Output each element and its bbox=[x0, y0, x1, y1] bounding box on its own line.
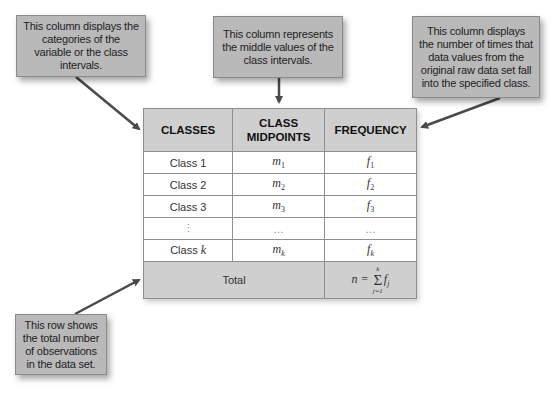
table-row: Class 3 m3 f3 bbox=[144, 196, 417, 218]
table-row: Class k mk fk bbox=[144, 240, 417, 262]
frequency-subscript: 3 bbox=[370, 206, 374, 215]
header-frequency: FREQUENCY bbox=[325, 109, 417, 152]
midpoint-subscript: 1 bbox=[281, 162, 285, 171]
callout-total: This row shows the total number of obser… bbox=[15, 314, 107, 375]
callout-midpoints-text: This column represents the middle values… bbox=[220, 28, 336, 67]
callout-frequency: This column displays the number of times… bbox=[412, 16, 540, 98]
midpoint-symbol: m bbox=[272, 198, 281, 212]
table-row: Class 2 m2 f2 bbox=[144, 174, 417, 196]
midpoint-cell: m1 bbox=[233, 152, 325, 174]
midpoint-cell: m2 bbox=[233, 174, 325, 196]
arrow-to-classes bbox=[76, 77, 139, 129]
midpoint-subscript: k bbox=[281, 250, 285, 259]
midpoint-symbol: m bbox=[272, 176, 281, 190]
total-row: Total n = k Σ j=1 fj bbox=[144, 262, 417, 299]
midpoint-cell: m3 bbox=[233, 196, 325, 218]
midpoint-cell: mk bbox=[233, 240, 325, 262]
header-class-midpoints-label: CLASS MIDPOINTS bbox=[244, 116, 314, 144]
frequency-subscript: k bbox=[370, 250, 374, 259]
formula-term-subscript: j bbox=[387, 279, 389, 288]
frequency-subscript: 1 bbox=[370, 162, 374, 171]
callout-frequency-text: This column displays the number of times… bbox=[419, 25, 533, 90]
class-label: Class bbox=[170, 244, 201, 256]
table-row-ellipsis: ⋮ … … bbox=[144, 218, 417, 240]
summation-symbol: k Σ j=1 bbox=[373, 265, 383, 295]
arrow-to-frequency bbox=[422, 98, 500, 127]
callout-total-text: This row shows the total number of obser… bbox=[22, 319, 100, 371]
class-cell: Class 2 bbox=[144, 174, 233, 196]
class-cell: Class 3 bbox=[144, 196, 233, 218]
frequency-table: CLASSES CLASS MIDPOINTS FREQUENCY Class … bbox=[143, 108, 417, 299]
frequency-cell: f2 bbox=[325, 174, 417, 196]
class-cell: Class k bbox=[144, 240, 233, 262]
frequency-cell: f1 bbox=[325, 152, 417, 174]
midpoint-subscript: 3 bbox=[281, 206, 285, 215]
header-row: CLASSES CLASS MIDPOINTS FREQUENCY bbox=[144, 109, 417, 152]
total-formula: n = k Σ j=1 fj bbox=[325, 262, 417, 299]
callout-midpoints: This column represents the middle values… bbox=[213, 16, 343, 78]
callout-classes: This column displays the categories of t… bbox=[16, 15, 146, 77]
header-classes: CLASSES bbox=[144, 109, 233, 152]
header-class-midpoints: CLASS MIDPOINTS bbox=[233, 109, 325, 152]
class-cell: Class 1 bbox=[144, 152, 233, 174]
midpoint-subscript: 2 bbox=[281, 184, 285, 193]
arrow-to-total bbox=[75, 280, 139, 314]
total-label: Total bbox=[144, 262, 325, 299]
frequency-cell: fk bbox=[325, 240, 417, 262]
sigma-icon: Σ bbox=[373, 273, 382, 287]
midpoint-symbol: m bbox=[272, 154, 281, 168]
class-cell-ellipsis: ⋮ bbox=[144, 218, 233, 240]
frequency-cell: f3 bbox=[325, 196, 417, 218]
midpoint-symbol: m bbox=[272, 242, 281, 256]
formula-lhs: n = bbox=[352, 272, 369, 286]
callout-classes-text: This column displays the categories of t… bbox=[23, 20, 139, 72]
sum-lower-limit: j=1 bbox=[373, 287, 383, 295]
midpoint-cell-ellipsis: … bbox=[233, 218, 325, 240]
frequency-cell-ellipsis: … bbox=[325, 218, 417, 240]
table-row: Class 1 m1 f1 bbox=[144, 152, 417, 174]
frequency-subscript: 2 bbox=[370, 184, 374, 193]
class-variable: k bbox=[201, 243, 206, 257]
